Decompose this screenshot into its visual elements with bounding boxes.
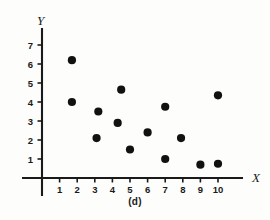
x-tick-labels: 12345678910 — [57, 184, 223, 195]
x-tick-label-5: 5 — [127, 184, 133, 195]
data-point — [114, 119, 122, 127]
y-tick-label-4: 4 — [28, 97, 34, 108]
data-point — [68, 56, 76, 64]
x-tick-label-2: 2 — [75, 184, 80, 195]
y-tick-label-7: 7 — [28, 40, 33, 51]
x-tick-label-3: 3 — [92, 184, 97, 195]
data-points — [68, 56, 222, 169]
data-point — [94, 107, 102, 115]
y-tick-labels: 1234567 — [28, 40, 34, 165]
y-tick-label-1: 1 — [28, 154, 34, 165]
data-point — [144, 128, 152, 136]
data-point — [68, 98, 76, 106]
scatter-plot-figure: 12345678910 1234567 X Y (d) — [0, 0, 270, 220]
axes — [22, 28, 243, 196]
data-point — [92, 134, 100, 142]
data-point — [126, 145, 134, 153]
plot-canvas: 12345678910 1234567 X Y — [0, 0, 270, 220]
x-tick-label-9: 9 — [198, 184, 203, 195]
axis-ticks — [38, 45, 219, 183]
data-point — [161, 103, 169, 111]
x-tick-label-1: 1 — [57, 184, 63, 195]
x-tick-label-7: 7 — [163, 184, 168, 195]
data-point — [214, 160, 222, 168]
x-tick-label-10: 10 — [213, 184, 224, 195]
y-tick-label-2: 2 — [28, 135, 33, 146]
x-axis-title: X — [251, 170, 261, 185]
y-axis-title: Y — [37, 13, 46, 28]
data-point — [214, 91, 222, 99]
x-tick-label-8: 8 — [180, 184, 185, 195]
x-tick-label-4: 4 — [110, 184, 116, 195]
data-point — [117, 86, 125, 94]
figure-caption: (d) — [0, 196, 270, 207]
y-tick-label-5: 5 — [28, 78, 34, 89]
data-point — [196, 161, 204, 169]
x-tick-label-6: 6 — [145, 184, 150, 195]
y-tick-label-6: 6 — [28, 59, 33, 70]
data-point — [177, 134, 185, 142]
y-tick-label-3: 3 — [28, 116, 33, 127]
data-point — [161, 155, 169, 163]
